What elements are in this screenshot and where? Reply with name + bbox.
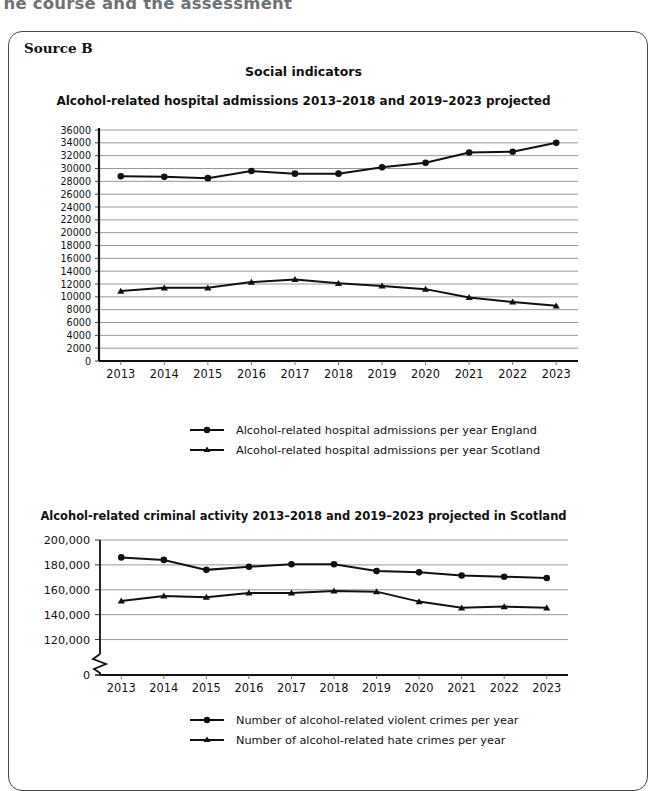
svg-text:2023: 2023	[532, 681, 561, 695]
svg-text:2016: 2016	[234, 681, 263, 695]
svg-text:2019: 2019	[362, 681, 391, 695]
svg-text:26000: 26000	[60, 189, 91, 200]
running-header: The course and the assessment	[0, 0, 412, 13]
legend-label: Number of alcohol-related hate crimes pe…	[236, 734, 506, 747]
hospital-admissions-chart: 0200040006000800010000120001400016000180…	[20, 118, 590, 393]
svg-text:16000: 16000	[60, 253, 91, 264]
svg-text:0: 0	[83, 669, 90, 682]
legend-item: Number of alcohol-related violent crimes…	[0, 710, 607, 730]
svg-text:12000: 12000	[60, 279, 91, 290]
svg-text:2017: 2017	[280, 367, 309, 381]
svg-text:20000: 20000	[60, 227, 91, 238]
svg-text:120,000: 120,000	[44, 634, 90, 647]
svg-text:2020: 2020	[405, 681, 434, 695]
source-label: Source B	[24, 40, 93, 56]
svg-text:2015: 2015	[192, 681, 221, 695]
svg-text:30000: 30000	[60, 163, 91, 174]
chart1-title: Alcohol-related hospital admissions 2013…	[0, 94, 607, 108]
svg-text:24000: 24000	[60, 202, 91, 213]
svg-text:2022: 2022	[498, 367, 527, 381]
svg-text:2015: 2015	[193, 367, 222, 381]
svg-text:2023: 2023	[542, 367, 571, 381]
svg-text:160,000: 160,000	[44, 584, 90, 597]
legend-label: Alcohol-related hospital admissions per …	[236, 424, 537, 437]
svg-text:4000: 4000	[67, 330, 91, 341]
main-title: Social indicators	[0, 64, 607, 79]
svg-text:2018: 2018	[320, 681, 349, 695]
svg-text:6000: 6000	[67, 317, 91, 328]
svg-text:2014: 2014	[150, 367, 179, 381]
svg-text:2021: 2021	[455, 367, 484, 381]
chart2-legend: Number of alcohol-related violent crimes…	[0, 710, 607, 750]
chart1-legend: Alcohol-related hospital admissions per …	[0, 420, 607, 460]
svg-text:2016: 2016	[237, 367, 266, 381]
svg-text:10000: 10000	[60, 291, 91, 302]
svg-text:2021: 2021	[447, 681, 476, 695]
svg-text:140,000: 140,000	[44, 609, 90, 622]
circle-marker-icon	[190, 424, 224, 436]
svg-text:2019: 2019	[368, 367, 397, 381]
svg-text:34000: 34000	[60, 137, 91, 148]
svg-text:32000: 32000	[60, 150, 91, 161]
svg-text:2013: 2013	[106, 367, 135, 381]
svg-text:2014: 2014	[149, 681, 178, 695]
svg-text:2022: 2022	[490, 681, 519, 695]
svg-text:22000: 22000	[60, 214, 91, 225]
svg-text:2018: 2018	[324, 367, 353, 381]
legend-label: Alcohol-related hospital admissions per …	[236, 444, 540, 457]
svg-text:2013: 2013	[107, 681, 136, 695]
legend-item: Number of alcohol-related hate crimes pe…	[0, 730, 607, 750]
svg-text:200,000: 200,000	[44, 534, 90, 547]
svg-text:180,000: 180,000	[44, 559, 90, 572]
svg-text:2000: 2000	[67, 343, 91, 354]
criminal-activity-chart: 120,000140,000160,000180,000200,00002013…	[12, 530, 592, 690]
svg-text:36000: 36000	[60, 125, 91, 136]
legend-item: Alcohol-related hospital admissions per …	[0, 440, 607, 460]
svg-text:0: 0	[85, 356, 91, 367]
legend-label: Number of alcohol-related violent crimes…	[236, 714, 518, 727]
svg-text:8000: 8000	[67, 304, 91, 315]
legend-item: Alcohol-related hospital admissions per …	[0, 420, 607, 440]
svg-text:2020: 2020	[411, 367, 440, 381]
circle-marker-icon	[190, 714, 224, 726]
svg-text:18000: 18000	[60, 240, 91, 251]
chart2-title: Alcohol-related criminal activity 2013–2…	[0, 509, 607, 523]
svg-text:14000: 14000	[60, 266, 91, 277]
triangle-marker-icon	[190, 734, 224, 746]
triangle-marker-icon	[190, 444, 224, 456]
svg-text:2017: 2017	[277, 681, 306, 695]
svg-text:28000: 28000	[60, 176, 91, 187]
